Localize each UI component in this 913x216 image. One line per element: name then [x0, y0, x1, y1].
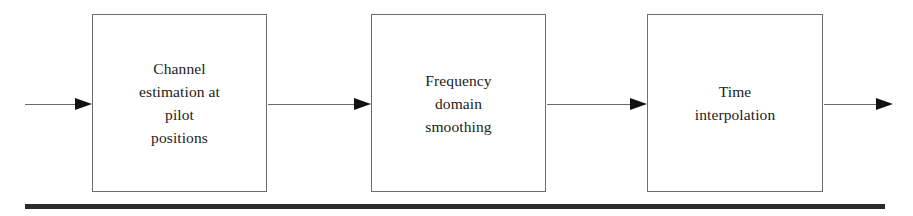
arrow-input-to-channel-estimation	[25, 98, 92, 111]
arrow-shaft	[547, 104, 630, 105]
block-diagram-figure: Channel estimation at pilot positions Fr…	[0, 0, 913, 216]
block-frequency-domain-smoothing: Frequency domain smoothing	[371, 14, 546, 192]
arrow-shaft	[25, 104, 75, 105]
arrow-head-icon	[354, 98, 371, 110]
block-channel-estimation-label: Channel estimation at pilot positions	[133, 57, 226, 149]
arrow-smoothing-to-time-interpolation	[547, 98, 647, 111]
arrow-time-interpolation-to-output	[824, 98, 893, 111]
figure-bottom-rule	[25, 204, 885, 209]
arrow-shaft	[268, 104, 354, 105]
arrow-shaft	[824, 104, 876, 105]
block-time-interpolation-label: Time interpolation	[689, 80, 782, 126]
arrow-head-icon	[876, 98, 893, 110]
block-channel-estimation: Channel estimation at pilot positions	[92, 14, 267, 192]
arrow-channel-estimation-to-smoothing	[268, 98, 371, 111]
arrow-head-icon	[75, 98, 92, 110]
block-time-interpolation: Time interpolation	[647, 14, 823, 192]
arrow-head-icon	[630, 98, 647, 110]
block-frequency-domain-smoothing-label: Frequency domain smoothing	[419, 69, 497, 138]
